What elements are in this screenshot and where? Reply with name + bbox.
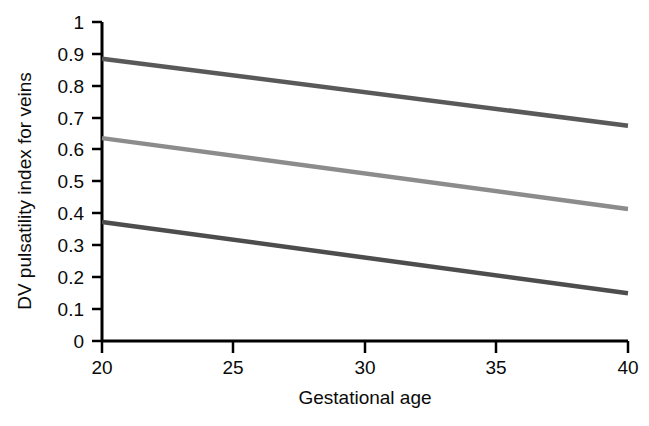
series-line-median-reference-line xyxy=(102,138,628,209)
chart-figure: 1 0.9 0.8 0.7 0.6 0.5 0.4 0.3 0.2 0.1 0 … xyxy=(0,0,649,426)
x-axis-title: Gestational age xyxy=(102,388,628,408)
y-tick-label-1: 1 xyxy=(40,13,84,32)
x-tick-label-30: 30 xyxy=(354,358,375,377)
y-tick-label-0.3: 0.3 xyxy=(40,236,84,255)
y-tick-label-0.6: 0.6 xyxy=(40,140,84,159)
y-tick-label-0.9: 0.9 xyxy=(40,45,84,64)
series-line-lower-reference-line xyxy=(102,222,628,293)
x-tick-label-40: 40 xyxy=(617,358,638,377)
y-axis-title: DV pulsatility index for veins xyxy=(15,26,35,356)
y-tick-label-0.5: 0.5 xyxy=(40,172,84,191)
y-tick-label-0: 0 xyxy=(40,332,84,351)
x-axis-ticks xyxy=(102,341,628,353)
y-tick-label-0.2: 0.2 xyxy=(40,268,84,287)
y-tick-label-0.4: 0.4 xyxy=(40,204,84,223)
y-tick-label-0.8: 0.8 xyxy=(40,77,84,96)
series-line-upper-reference-line xyxy=(102,59,628,126)
x-tick-label-20: 20 xyxy=(91,358,112,377)
y-tick-label-0.1: 0.1 xyxy=(40,300,84,319)
x-tick-label-35: 35 xyxy=(485,358,506,377)
y-tick-label-0.7: 0.7 xyxy=(40,109,84,128)
x-tick-label-25: 25 xyxy=(222,358,243,377)
